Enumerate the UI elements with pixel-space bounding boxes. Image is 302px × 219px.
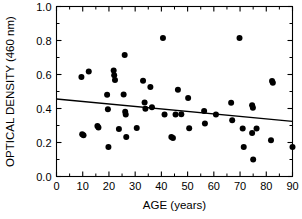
data-point	[250, 157, 256, 163]
regression-trend-line	[57, 99, 293, 121]
y-tick-label-3: 0.6	[36, 69, 51, 81]
data-point	[162, 112, 168, 118]
data-point	[178, 111, 184, 117]
data-point	[270, 80, 276, 86]
data-point	[237, 35, 243, 41]
data-point	[249, 130, 255, 136]
x-axis-major-ticks	[57, 7, 293, 177]
data-point	[104, 92, 110, 98]
x-tick-label-6: 60	[208, 180, 220, 192]
scatter-plot-figure: 0102030405060708090 0.00.20.40.60.81.0 A…	[0, 0, 302, 219]
data-point	[268, 137, 274, 143]
y-tick-label-1: 0.2	[36, 137, 51, 149]
data-point	[290, 144, 296, 150]
x-axis-title: AGE (years)	[143, 199, 206, 211]
x-tick-label-8: 80	[260, 180, 272, 192]
data-point	[149, 104, 155, 110]
x-tick-label-5: 50	[181, 180, 193, 192]
y-axis-tick-labels: 0.00.20.40.60.81.0	[36, 1, 51, 183]
x-tick-label-2: 20	[103, 180, 115, 192]
data-point	[121, 92, 127, 98]
x-tick-label-1: 10	[77, 180, 89, 192]
data-point	[250, 105, 256, 111]
data-point	[241, 144, 247, 150]
data-point	[186, 125, 192, 131]
plot-frame	[57, 7, 293, 177]
data-point	[202, 120, 208, 126]
y-axis-major-ticks	[57, 7, 293, 177]
data-point	[105, 144, 111, 150]
data-point	[173, 112, 179, 118]
data-point	[228, 100, 234, 106]
data-point	[122, 52, 128, 58]
data-point	[123, 134, 129, 140]
x-tick-label-0: 0	[53, 180, 59, 192]
x-tick-label-4: 40	[155, 180, 167, 192]
y-axis-title: OPTICAL DENSITY (460 nm)	[4, 16, 16, 167]
data-point	[123, 111, 129, 117]
x-axis-minor-ticks	[70, 7, 280, 177]
plot-canvas: 0102030405060708090 0.00.20.40.60.81.0 A…	[0, 0, 302, 219]
data-point	[175, 87, 181, 93]
x-axis-tick-labels: 0102030405060708090	[53, 180, 298, 192]
y-tick-label-4: 0.8	[36, 35, 51, 47]
data-point	[86, 69, 92, 75]
data-point	[170, 135, 176, 141]
data-point	[112, 77, 118, 83]
x-tick-label-3: 30	[129, 180, 141, 192]
data-point	[78, 74, 84, 80]
data-point	[140, 78, 146, 84]
data-point	[116, 126, 122, 132]
data-point	[142, 99, 148, 105]
data-point	[254, 125, 260, 131]
data-point	[229, 117, 235, 123]
data-point	[105, 106, 111, 112]
data-series-points	[78, 35, 295, 163]
data-point	[185, 95, 191, 101]
axes-frame	[57, 7, 293, 177]
data-point	[147, 84, 153, 90]
data-point	[134, 125, 140, 131]
data-point	[160, 35, 166, 41]
data-point	[95, 125, 101, 131]
x-tick-label-9: 90	[286, 180, 298, 192]
data-point	[240, 125, 246, 131]
data-point	[81, 132, 87, 138]
y-tick-label-2: 0.4	[36, 103, 51, 115]
x-tick-label-7: 70	[234, 180, 246, 192]
y-tick-label-0: 0.0	[36, 171, 51, 183]
y-tick-label-5: 1.0	[36, 1, 51, 13]
